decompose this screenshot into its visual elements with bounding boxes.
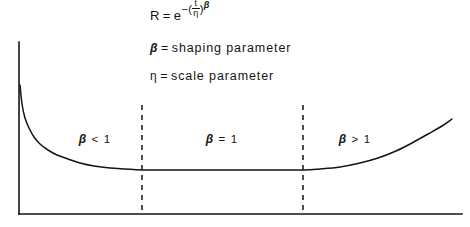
definition-beta-text: shaping parameter (172, 41, 292, 55)
bathtub-curve-figure: R=e−(tη)β β=shaping parameter η=scale pa… (0, 0, 470, 227)
reliability-formula: R=e−(tη)β (150, 6, 380, 26)
region-left-symbol: β (79, 132, 88, 146)
formula-exponent: −(tη)β (181, 0, 209, 19)
definition-eta-text: scale parameter (171, 69, 274, 83)
region-left-operator: < (92, 133, 100, 145)
region-label-beta-greater-than-one: β > 1 (339, 133, 371, 146)
region-mid-operator: = (219, 133, 227, 145)
region-mid-symbol: β (206, 132, 215, 146)
beta-symbol: β (150, 41, 158, 55)
exponent-beta: β (204, 1, 210, 10)
definition-beta-equals: = (158, 41, 172, 55)
formula-equals: = (160, 8, 174, 23)
bathtub-curve-line (20, 85, 452, 170)
region-left-value: 1 (104, 133, 112, 145)
region-right-value: 1 (364, 133, 372, 145)
formula-lhs: R (150, 8, 160, 23)
formula-base: e (174, 8, 182, 23)
region-mid-value: 1 (231, 133, 239, 145)
annotation-block: R=e−(tη)β β=shaping parameter η=scale pa… (150, 6, 380, 82)
definition-beta: β=shaping parameter (150, 42, 380, 55)
definition-eta-equals: = (157, 69, 171, 83)
fraction-t-over-eta: tη (192, 0, 199, 19)
region-right-operator: > (352, 133, 360, 145)
region-right-symbol: β (339, 132, 348, 146)
region-label-beta-less-than-one: β < 1 (79, 133, 111, 146)
fraction-denominator: η (192, 9, 199, 18)
region-label-beta-equals-one: β = 1 (206, 133, 238, 146)
definition-eta: η=scale parameter (150, 70, 380, 83)
